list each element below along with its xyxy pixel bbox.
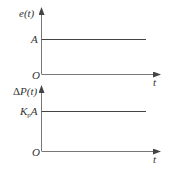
delta-symbol: Δ (13, 85, 20, 97)
bottom-y-label: ΔP(t) (13, 85, 38, 98)
top-level-label: A (30, 33, 38, 45)
top-origin-label: O (32, 69, 40, 81)
bottom-chart: ΔP(t) KpA O t (13, 85, 160, 165)
step-response-charts: e(t) A O t ΔP(t) KpA O t (0, 0, 173, 177)
top-x-label: t (153, 76, 157, 88)
top-chart: e(t) A O t (19, 7, 160, 88)
bottom-level-label: KpA (19, 105, 38, 119)
bottom-origin-label: O (32, 146, 40, 158)
top-y-label: e(t) (19, 7, 35, 20)
bottom-x-label: t (153, 153, 157, 165)
